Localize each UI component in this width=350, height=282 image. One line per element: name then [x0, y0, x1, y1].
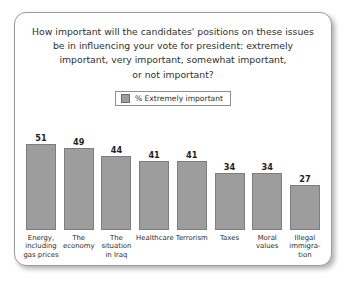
bar [64, 148, 94, 230]
bar-value-label: 44 [111, 146, 122, 154]
bar-column: 34 [249, 118, 285, 230]
chart-legend: % Extremely important [15, 91, 331, 106]
bar [26, 144, 56, 230]
bar [139, 161, 169, 230]
chart-card: How important will the candidates' posit… [14, 12, 332, 266]
bar-column: 51 [23, 118, 59, 230]
bar-value-label: 41 [148, 151, 159, 159]
category-label: Taxes [212, 234, 248, 260]
bar-column: 49 [61, 118, 97, 230]
bar-column: 44 [98, 118, 134, 230]
bar [215, 173, 245, 230]
bar-value-label: 41 [186, 151, 197, 159]
legend-item: % Extremely important [115, 91, 231, 106]
category-label: Terrorism [174, 234, 210, 260]
chart-title: How important will the candidates' posit… [15, 13, 331, 82]
bar-value-label: 51 [35, 134, 46, 142]
category-label: Energy, including gas prices [23, 234, 59, 260]
legend-swatch-icon [121, 94, 130, 103]
category-label: Illegal immigra- tion [287, 234, 323, 260]
bar-value-label: 34 [224, 163, 235, 171]
bar-column: 41 [174, 118, 210, 230]
bar [252, 173, 282, 230]
bar-value-label: 34 [262, 163, 273, 171]
category-label: Moral values [249, 234, 285, 260]
category-label: The situation in Iraq [98, 234, 134, 260]
bar [177, 161, 207, 230]
category-label: The economy [61, 234, 97, 260]
bar [101, 156, 131, 230]
bar-column: 27 [287, 118, 323, 230]
bar-column: 34 [212, 118, 248, 230]
category-label: Healthcare [136, 234, 172, 260]
plot-area: 5149444141343427 [15, 118, 331, 230]
bar-value-label: 49 [73, 138, 84, 146]
legend-item-label: % Extremely important [135, 94, 223, 103]
bar [290, 185, 320, 230]
bar-value-label: 27 [299, 175, 310, 183]
bar-column: 41 [136, 118, 172, 230]
category-axis: Energy, including gas pricesThe economyT… [15, 230, 331, 260]
